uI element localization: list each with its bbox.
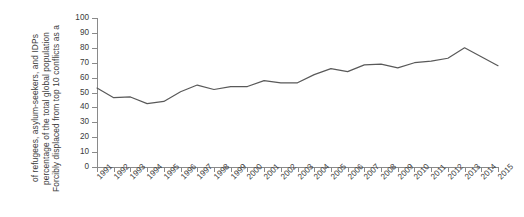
y-tick-0: 0 (0, 167, 97, 168)
y-tick-label: 90 (80, 28, 89, 37)
y-tick-label: 30 (80, 117, 89, 126)
y-tick-40: 40 (0, 107, 97, 108)
y-tick-label: 20 (80, 132, 89, 141)
data-polyline (97, 48, 498, 104)
y-tick-80: 80 (0, 48, 97, 49)
line-chart: of refugees, asylum-seekers, and IDPs pe… (0, 0, 524, 217)
y-tick-90: 90 (0, 33, 97, 34)
y-tick-50: 50 (0, 93, 97, 94)
y-tick-30: 30 (0, 122, 97, 123)
series-polyline (97, 18, 498, 167)
y-tick-10: 10 (0, 152, 97, 153)
x-tick-label-2015: 2015 (496, 162, 515, 181)
y-tick-label: 0 (84, 162, 89, 171)
y-tick-label: 10 (80, 147, 89, 156)
y-tick-20: 20 (0, 137, 97, 138)
y-axis-ticks: 0102030405060708090100 (0, 0, 97, 217)
y-tick-70: 70 (0, 63, 97, 64)
y-tick-label: 70 (80, 58, 89, 67)
y-tick-label: 60 (80, 73, 89, 82)
y-tick-label: 80 (80, 43, 89, 52)
y-tick-label: 100 (75, 13, 89, 22)
y-tick-label: 40 (80, 102, 89, 111)
y-tick-100: 100 (0, 18, 97, 19)
y-tick-label: 50 (80, 88, 89, 97)
y-tick-60: 60 (0, 78, 97, 79)
